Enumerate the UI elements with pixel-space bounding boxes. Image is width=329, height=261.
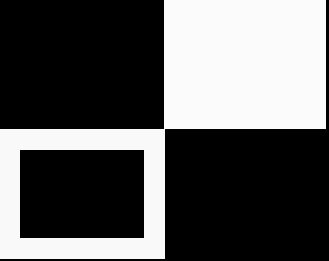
top-right-white-quadrant <box>164 0 326 129</box>
inner-black-rectangle <box>20 150 144 238</box>
top-left-black-quadrant <box>0 0 164 129</box>
bottom-right-black-quadrant <box>165 129 329 261</box>
